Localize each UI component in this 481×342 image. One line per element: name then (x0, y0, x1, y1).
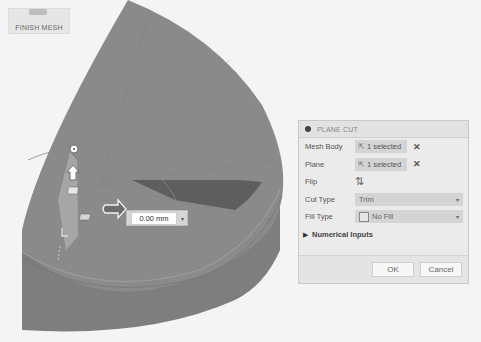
dialog-header[interactable]: PLANE CUT (299, 121, 468, 138)
mesh-body-value: 1 selected (367, 142, 401, 151)
mesh-body-label: Mesh Body (305, 142, 355, 151)
mesh-body-selector[interactable]: ⇱ 1 selected (355, 140, 407, 153)
numerical-inputs-toggle[interactable]: ▶ Numerical Inputs (299, 227, 468, 243)
distance-dropdown-caret-icon[interactable]: ▾ (181, 215, 184, 222)
no-fill-icon (359, 212, 369, 222)
plane-selector[interactable]: ⇱ 1 selected (355, 158, 407, 171)
mesh-body-clear-icon[interactable]: ✕ (413, 142, 421, 152)
finish-mesh-icon (29, 9, 47, 15)
plane-label: Plane (305, 160, 355, 169)
cut-type-label: Cut Type (305, 195, 355, 204)
cursor-select-icon: ⇱ (358, 160, 365, 169)
plane-cut-dialog: PLANE CUT Mesh Body ⇱ 1 selected ✕ Plane… (298, 120, 469, 284)
cursor-select-icon: ⇱ (358, 142, 365, 151)
flip-icon[interactable]: ⇅ (355, 175, 364, 188)
finish-mesh-button[interactable]: FINISH MESH (8, 8, 70, 34)
fill-type-value: No Fill (372, 212, 393, 221)
fill-type-dropdown[interactable]: No Fill ▾ (355, 210, 463, 223)
finish-mesh-label: FINISH MESH (15, 24, 62, 31)
ok-button[interactable]: OK (372, 262, 414, 277)
plane-handle-2 (79, 214, 90, 220)
expand-triangle-icon: ▶ (303, 231, 308, 239)
cancel-button[interactable]: Cancel (420, 262, 462, 277)
distance-input-box[interactable]: 0.00 mm ▾ (126, 210, 188, 226)
row-cut-type: Cut Type Trim ▾ (299, 191, 468, 209)
dialog-collapse-icon[interactable] (305, 126, 311, 132)
cut-type-dropdown[interactable]: Trim ▾ (355, 193, 463, 206)
row-flip: Flip ⇅ (299, 173, 468, 191)
chevron-down-icon: ▾ (456, 196, 459, 203)
flip-label: Flip (305, 177, 355, 186)
chevron-down-icon: ▾ (456, 213, 459, 220)
mesh-top-face (22, 0, 283, 292)
row-plane: Plane ⇱ 1 selected ✕ (299, 156, 468, 174)
fill-type-label: Fill Type (305, 212, 355, 221)
plane-clear-icon[interactable]: ✕ (413, 159, 421, 169)
distance-input[interactable]: 0.00 mm (131, 212, 177, 225)
plane-value: 1 selected (367, 160, 401, 169)
row-fill-type: Fill Type No Fill ▾ (299, 208, 468, 226)
cut-type-value: Trim (359, 195, 374, 204)
numerical-inputs-label: Numerical Inputs (312, 230, 373, 239)
dialog-footer: OK Cancel (299, 255, 468, 283)
plane-handle-1 (68, 187, 79, 194)
row-mesh-body: Mesh Body ⇱ 1 selected ✕ (299, 138, 468, 156)
dialog-title: PLANE CUT (317, 126, 358, 133)
